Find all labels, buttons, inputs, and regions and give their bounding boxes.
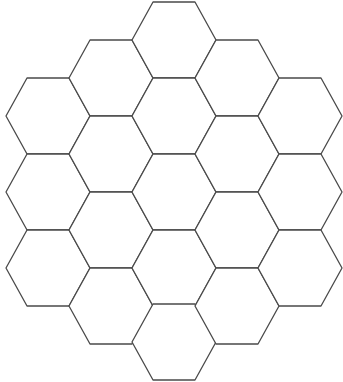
hex-grid bbox=[0, 0, 343, 382]
hex-grid-diagram bbox=[0, 0, 343, 382]
